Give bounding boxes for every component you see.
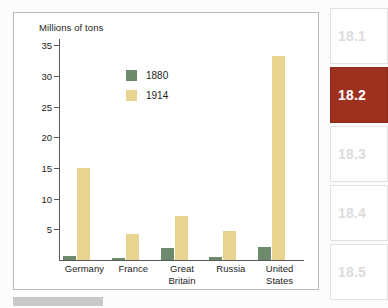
tab-label: 18.4 (338, 205, 366, 221)
bar-group (109, 39, 158, 260)
x-axis-label-line: Britain (150, 275, 215, 287)
x-axis-labels: GermanyFranceGreatBritainRussiaUnitedSta… (60, 263, 304, 293)
tab-18-3[interactable]: 18.3 (330, 126, 388, 182)
bar-1880 (161, 248, 174, 260)
y-axis-tick-label: 5 (16, 224, 52, 235)
x-axis-line (59, 260, 304, 261)
y-axis-labels: 5101520253035 (14, 13, 52, 261)
y-axis-tick-label: 10 (16, 193, 52, 204)
y-axis-tick (54, 229, 60, 230)
y-axis-tick-label: 20 (16, 132, 52, 143)
y-axis-tick (54, 199, 60, 200)
bar-series-container (60, 39, 304, 260)
y-axis-tick (54, 45, 60, 46)
bar-1880 (209, 257, 222, 260)
y-axis-tick (54, 137, 60, 138)
bar-1914 (77, 168, 90, 260)
x-axis-label: UnitedStates (247, 263, 312, 286)
bar-1914 (272, 56, 285, 260)
bottom-placeholder-bar (13, 297, 103, 306)
x-axis-label-line: States (247, 275, 312, 287)
page-root: Millions of tons 5101520253035 18801914 … (0, 0, 388, 308)
section-tab-rail: 18.118.218.318.418.5 (330, 8, 388, 303)
chart-panel: Millions of tons 5101520253035 18801914 … (13, 12, 319, 290)
bar-group (60, 39, 109, 260)
tab-label: 18.3 (338, 146, 366, 162)
tab-18-1[interactable]: 18.1 (330, 8, 388, 64)
y-axis-tick-label: 15 (16, 162, 52, 173)
bar-1880 (112, 258, 125, 260)
y-axis-tick-label: 35 (16, 40, 52, 51)
tab-18-4[interactable]: 18.4 (330, 185, 388, 241)
bar-1914 (126, 234, 139, 260)
tab-label: 18.2 (338, 87, 366, 103)
tab-18-2[interactable]: 18.2 (330, 67, 388, 123)
y-axis-tick (54, 168, 60, 169)
y-axis-tick-label: 25 (16, 101, 52, 112)
tab-18-5[interactable]: 18.5 (330, 244, 388, 300)
tab-label: 18.5 (338, 264, 366, 280)
bar-group (255, 39, 304, 260)
y-axis-tick-label: 30 (16, 70, 52, 81)
y-axis-tick (54, 76, 60, 77)
bar-group (206, 39, 255, 260)
bar-1914 (175, 216, 188, 260)
bar-group (158, 39, 207, 260)
x-axis-label-line: United (247, 263, 312, 275)
bar-1880 (63, 256, 76, 260)
tab-label: 18.1 (338, 28, 366, 44)
bar-1880 (258, 247, 271, 260)
bar-1914 (223, 231, 236, 260)
y-axis-tick (54, 107, 60, 108)
